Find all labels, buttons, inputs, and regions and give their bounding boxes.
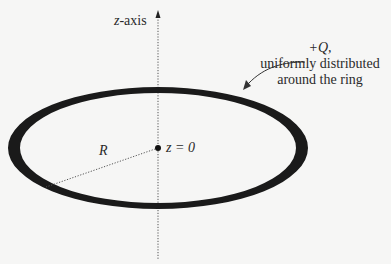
charge-label-line3: around the ring [255,72,385,88]
z-axis-label: z-axis [114,13,147,29]
ring-charge-diagram: z-axis +Q, uniformly distributed around … [0,0,391,264]
charge-label-line1: +Q, [255,40,385,56]
charge-label: +Q, uniformly distributed around the rin… [255,40,385,88]
origin-point [155,145,161,151]
z-axis-arrowhead-icon [156,10,161,18]
origin-label: z = 0 [166,140,195,156]
z-axis-label-rest: -axis [119,13,146,28]
radius-label: R [99,143,108,159]
charge-label-line2: uniformly distributed [255,56,385,72]
